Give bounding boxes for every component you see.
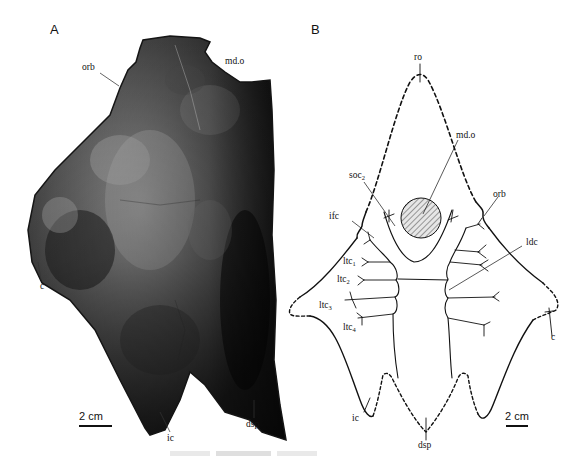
md-o-opening — [401, 198, 441, 238]
ltc2-text: ltc — [337, 274, 347, 284]
label-b-ifc: ifc — [329, 212, 339, 222]
ltc2-subscript: 2 — [347, 278, 350, 285]
scale-bar-b — [506, 425, 528, 427]
scale-label-b: 2 cm — [505, 411, 529, 422]
panel-b-drawing — [289, 64, 557, 440]
label-b-dsp: dsp — [418, 441, 431, 451]
ltc4-subscript: 4 — [353, 326, 356, 333]
label-b-ltc1: ltc1 — [343, 257, 356, 268]
label-b-ic: ic — [352, 414, 359, 424]
figure: A — [0, 0, 579, 462]
ltc1-text: ltc — [343, 256, 353, 266]
ltc3-text: ltc — [319, 300, 329, 310]
label-b-ltc3: ltc3 — [319, 301, 332, 312]
label-a-dsp: dsp — [246, 420, 259, 430]
label-b-ro: ro — [414, 53, 422, 63]
label-b-md-o: md.o — [456, 131, 475, 141]
label-b-orb: orb — [493, 190, 506, 200]
label-a-ic: ic — [167, 434, 174, 444]
ltc1-subscript: 1 — [353, 260, 356, 267]
label-a-c: c — [40, 282, 44, 292]
caption-residue — [170, 451, 320, 457]
soc-text: soc — [349, 170, 362, 180]
label-b-soc2: soc2 — [349, 171, 365, 182]
panel-b-letter: B — [311, 22, 320, 37]
label-a-md-o: md.o — [225, 57, 244, 67]
ltc4-text: ltc — [343, 322, 353, 332]
scale-label-a: 2 cm — [79, 411, 103, 422]
scale-bar-a — [79, 425, 112, 427]
leader-a-orb — [100, 73, 119, 86]
label-b-ltc4: ltc4 — [343, 323, 356, 334]
label-b-c: c — [551, 333, 555, 343]
soc-subscript: 2 — [362, 174, 365, 181]
label-b-ltc2: ltc2 — [337, 275, 350, 286]
ltc3-subscript: 3 — [329, 304, 332, 311]
label-b-ldc: ldc — [526, 238, 538, 248]
label-a-orb: orb — [82, 63, 95, 73]
